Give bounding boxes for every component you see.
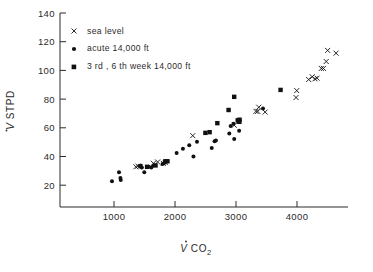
y-tick-label-60: 60 bbox=[44, 122, 55, 133]
data-point-dot bbox=[175, 151, 179, 155]
data-point-square bbox=[145, 165, 149, 169]
data-point-square bbox=[153, 163, 157, 167]
svg-text:V STPD: V STPD bbox=[5, 90, 16, 130]
data-point-square bbox=[226, 108, 230, 112]
data-point-cross bbox=[190, 133, 195, 138]
data-point-dot bbox=[210, 146, 214, 150]
data-point-dot bbox=[227, 132, 231, 136]
legend-label-weeks: 3 rd , 6 th week 14,000 ft bbox=[87, 61, 191, 71]
x-axis-title-overdot bbox=[185, 241, 187, 243]
data-point-square bbox=[165, 159, 169, 163]
legend-marker-square-icon bbox=[72, 65, 77, 70]
chart-figure: 140 120 100 80 60 40 20 1000 2000 3000 4… bbox=[0, 0, 373, 272]
data-point-dot bbox=[110, 179, 114, 183]
data-point-square bbox=[207, 130, 211, 134]
y-axis-title-overdot bbox=[6, 130, 8, 132]
legend-entry-acute: acute 14,000 ft bbox=[72, 43, 149, 53]
data-point-dot bbox=[119, 178, 123, 182]
data-point-dot bbox=[181, 147, 185, 151]
series-acute-points bbox=[110, 107, 265, 184]
data-point-cross bbox=[256, 105, 261, 110]
data-point-cross bbox=[310, 74, 315, 79]
data-point-square bbox=[237, 118, 241, 122]
y-tick-label-40: 40 bbox=[44, 151, 55, 162]
data-point-dot bbox=[187, 143, 191, 147]
legend-label-acute: acute 14,000 ft bbox=[87, 43, 149, 53]
y-tick-label-80: 80 bbox=[44, 94, 55, 105]
x-axis-title-subscript: 2 bbox=[207, 248, 212, 257]
svg-text:V CO2: V CO2 bbox=[180, 243, 212, 257]
x-axis-title: V CO2 bbox=[180, 241, 212, 257]
y-axis-title: V STPD bbox=[5, 90, 16, 131]
data-point-dot bbox=[117, 170, 121, 174]
data-point-dot bbox=[214, 138, 218, 142]
y-tick-label-140: 140 bbox=[38, 8, 55, 19]
y-axis-ticks: 140 120 100 80 60 40 20 bbox=[38, 8, 66, 191]
x-tick-label-4000: 4000 bbox=[286, 211, 309, 222]
y-tick-label-120: 120 bbox=[38, 36, 55, 47]
y-tick-label-100: 100 bbox=[38, 65, 55, 76]
x-tick-label-2000: 2000 bbox=[164, 211, 187, 222]
legend-entry-sea-level: sea level bbox=[72, 26, 125, 36]
legend-entry-weeks: 3 rd , 6 th week 14,000 ft bbox=[72, 61, 191, 71]
x-tick-label-1000: 1000 bbox=[103, 211, 126, 222]
legend-marker-dot-icon bbox=[72, 47, 76, 51]
y-axis-title-text: STPD bbox=[5, 90, 16, 122]
data-point-cross bbox=[324, 59, 329, 64]
legend: sea level acute 14,000 ft 3 rd , 6 th we… bbox=[72, 26, 191, 72]
scatter-plot-svg: 140 120 100 80 60 40 20 1000 2000 3000 4… bbox=[0, 0, 373, 272]
legend-marker-cross-icon bbox=[72, 29, 77, 34]
data-point-cross bbox=[294, 88, 299, 93]
data-point-square bbox=[278, 88, 282, 92]
data-point-cross bbox=[306, 77, 311, 82]
data-point-dot bbox=[261, 107, 265, 111]
data-point-dot bbox=[191, 154, 195, 158]
data-point-square bbox=[138, 164, 142, 168]
x-tick-label-3000: 3000 bbox=[225, 211, 248, 222]
x-axis-title-text: CO bbox=[187, 243, 207, 254]
data-point-square bbox=[203, 131, 207, 135]
data-point-dot bbox=[232, 122, 236, 126]
data-point-cross bbox=[334, 51, 339, 56]
y-tick-label-20: 20 bbox=[44, 180, 55, 191]
data-point-dot bbox=[232, 137, 236, 141]
data-point-square bbox=[215, 121, 219, 125]
data-point-dot bbox=[142, 170, 146, 174]
data-point-cross bbox=[294, 95, 299, 100]
data-point-square bbox=[232, 95, 236, 99]
data-point-dot bbox=[195, 140, 199, 144]
data-point-dot bbox=[237, 129, 241, 133]
legend-label-sea-level: sea level bbox=[87, 26, 124, 36]
data-point-cross bbox=[325, 48, 330, 53]
series-weeks-points bbox=[138, 88, 283, 169]
x-axis-ticks: 1000 2000 3000 4000 bbox=[103, 201, 309, 222]
